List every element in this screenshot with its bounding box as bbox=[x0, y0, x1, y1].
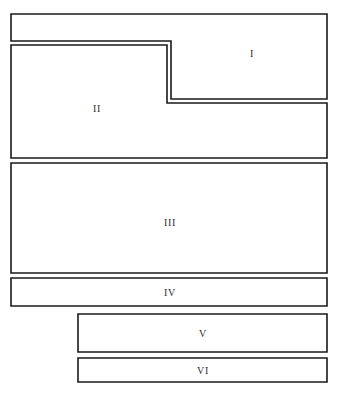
unit-label-iii: III bbox=[164, 217, 176, 228]
unit-label-vi: VI bbox=[197, 365, 209, 376]
unit-label-iv: IV bbox=[164, 287, 176, 298]
unit-label-ii: II bbox=[93, 103, 101, 114]
unit-label-i: I bbox=[250, 48, 254, 59]
unit-label-v: V bbox=[199, 328, 207, 339]
diagram-canvas: I II III IV V VI bbox=[0, 0, 349, 395]
diagram-shapes-layer bbox=[0, 0, 349, 395]
